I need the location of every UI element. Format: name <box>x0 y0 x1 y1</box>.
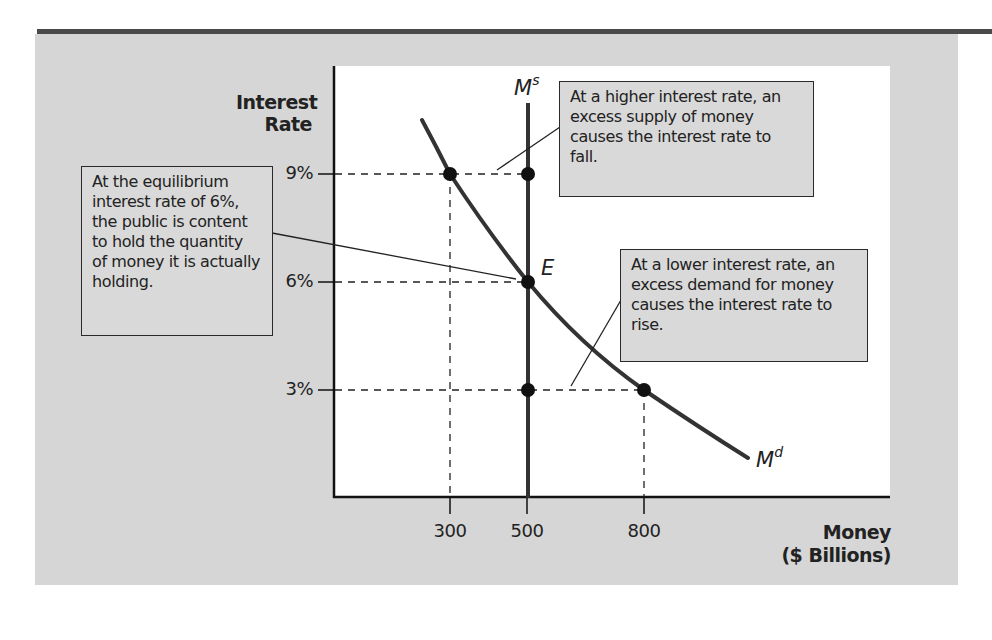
y-axis-title-line1: Interest <box>236 91 312 113</box>
point-500-9 <box>521 167 535 181</box>
guide-lines <box>335 174 644 497</box>
x-tick-label-800: 800 <box>614 520 674 541</box>
point-500-3 <box>521 383 535 397</box>
leader-line-lower <box>571 300 621 386</box>
y-axis-title-line2: Rate <box>236 113 312 135</box>
equilibrium-label: E <box>541 256 554 280</box>
x-tick-label-300: 300 <box>420 520 480 541</box>
y-tick-label-3: 3% <box>263 378 313 399</box>
point-800-3 <box>637 383 651 397</box>
money-demand-label-sup: d <box>774 444 783 460</box>
money-demand-label: Md <box>756 446 783 472</box>
x-axis-title-line1: Money <box>778 521 891 544</box>
callout-lower-rate: At a lower interest rate, an excess dema… <box>620 249 868 362</box>
money-supply-label: Ms <box>514 74 539 100</box>
money-supply-label-base: M <box>514 76 532 100</box>
y-axis-title: Interest Rate <box>236 91 312 135</box>
money-supply-label-sup: s <box>532 72 539 88</box>
point-equilibrium <box>521 275 535 289</box>
x-tick-label-500: 500 <box>497 520 557 541</box>
callout-equilibrium: At the equilibrium interest rate of 6%, … <box>81 166 273 336</box>
money-demand-label-base: M <box>756 448 774 472</box>
callout-higher-rate: At a higher interest rate, an excess sup… <box>559 81 814 197</box>
point-300-9 <box>443 167 457 181</box>
x-axis-title: Money ($ Billions) <box>778 521 891 567</box>
x-axis-title-line2: ($ Billions) <box>778 544 891 567</box>
